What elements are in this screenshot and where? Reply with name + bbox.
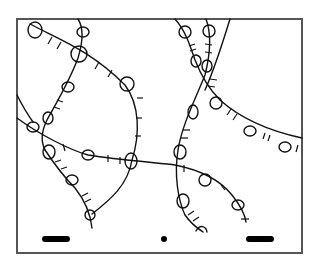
center-dot-marker: [161, 236, 167, 242]
strand-diagram: [0, 0, 314, 265]
left-bar-marker: [42, 236, 70, 242]
frame-border: [17, 19, 302, 253]
strand-c: [17, 118, 249, 222]
strand-a: [28, 22, 143, 214]
diagram-canvas: [0, 0, 314, 265]
strand-b: [42, 19, 89, 150]
right-bar-marker: [246, 236, 274, 242]
strand-f: [175, 19, 302, 152]
strand-h: [17, 95, 33, 122]
strand-d: [43, 145, 95, 228]
strand-e: [174, 19, 215, 232]
